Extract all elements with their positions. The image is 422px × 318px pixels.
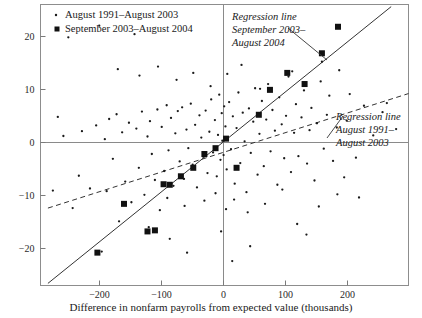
data-point-dot: [305, 233, 307, 235]
data-point-dot: [115, 113, 117, 115]
data-point-dot: [222, 154, 224, 156]
data-point-dot: [303, 89, 305, 91]
data-point-dot: [169, 238, 171, 240]
data-point-dot: [217, 134, 219, 136]
data-point-dot: [167, 149, 169, 151]
data-point-dot: [228, 101, 230, 103]
data-point-square: [121, 201, 127, 207]
data-point-dot: [237, 91, 239, 93]
data-point-dot: [101, 250, 103, 252]
data-point-dot: [343, 176, 345, 178]
data-point-dot: [141, 110, 143, 112]
data-point-dot: [295, 103, 297, 105]
data-point-square: [267, 87, 273, 93]
data-point-dot: [156, 108, 158, 110]
data-point-dot: [186, 251, 188, 253]
data-point-dot: [293, 132, 295, 134]
data-point-square: [213, 145, 219, 151]
data-point-dot: [386, 102, 388, 104]
data-point-dot: [276, 184, 278, 186]
data-point-dot: [232, 115, 234, 117]
data-point-dot: [138, 167, 140, 169]
data-point-dot: [291, 70, 293, 72]
data-point-dot: [179, 160, 181, 162]
data-point-dot: [245, 191, 247, 193]
y-tick-label: 10: [25, 84, 35, 95]
data-point-dot: [89, 187, 91, 189]
data-point-dot: [283, 157, 285, 159]
data-point-dot: [210, 98, 212, 100]
legend-item-label: August 1991–August 2003: [65, 8, 178, 22]
data-point-dot: [135, 127, 137, 129]
data-point-dot: [67, 36, 69, 38]
data-point-dot: [310, 107, 312, 109]
data-point-dot: [52, 189, 54, 191]
data-point-dot: [336, 193, 338, 195]
data-point-dot: [323, 148, 325, 150]
data-point-dot: [316, 122, 318, 124]
y-tick-label: −20: [19, 243, 35, 254]
data-point-dot: [214, 192, 216, 194]
data-point-square: [335, 24, 341, 30]
data-point-dot: [248, 107, 250, 109]
y-tick-label: −10: [19, 190, 35, 201]
annotation-line: August 2003: [336, 136, 401, 149]
data-point-dot: [296, 223, 298, 225]
data-point-dot: [297, 155, 299, 157]
data-point-dot: [157, 65, 159, 67]
data-point-dot: [242, 112, 244, 114]
chart-background: [0, 0, 422, 318]
data-point-dot: [258, 133, 260, 135]
data-point-dot: [138, 74, 140, 76]
data-point-dot: [349, 93, 351, 95]
data-point-dot: [81, 130, 83, 132]
data-point-dot: [250, 152, 252, 154]
data-point-dot: [106, 190, 108, 192]
data-point-dot: [226, 168, 228, 170]
annotation-line: August 1991–: [336, 123, 401, 136]
data-point-dot: [230, 148, 232, 150]
data-point-square: [94, 250, 100, 256]
data-point-dot: [300, 116, 302, 118]
data-point-dot: [338, 69, 340, 71]
annotation-line: Regression line: [232, 10, 305, 23]
data-point-dot: [243, 140, 245, 142]
data-point-dot: [149, 120, 151, 122]
data-point-square: [223, 136, 229, 142]
data-point-dot: [254, 87, 256, 89]
data-point-dot: [206, 172, 208, 174]
data-point-dot: [151, 153, 153, 155]
annotation-regression-august-1991: Regression line August 1991– August 2003: [336, 110, 401, 149]
data-point-dot: [234, 183, 236, 185]
data-point-dot: [281, 123, 283, 125]
data-point-dot: [326, 114, 328, 116]
data-point-dot: [239, 162, 241, 164]
data-point-dot: [252, 121, 254, 123]
data-point-dot: [363, 105, 365, 107]
data-point-dot: [249, 245, 251, 247]
data-point-dot: [112, 158, 114, 160]
data-point-square: [234, 165, 240, 171]
data-point-dot: [240, 64, 242, 66]
legend: August 1991–August 2003 September 2003–A…: [53, 8, 193, 36]
data-point-dot: [72, 207, 74, 209]
data-point-dot: [181, 106, 183, 108]
data-point-dot: [233, 198, 235, 200]
data-point-dot: [355, 157, 357, 159]
data-point-dot: [154, 179, 156, 181]
data-point-dot: [62, 135, 64, 137]
data-point-square: [152, 227, 158, 233]
data-point-dot: [175, 79, 177, 81]
square-marker-icon: [53, 25, 65, 33]
data-point-dot: [313, 179, 315, 181]
data-point-dot: [231, 260, 233, 262]
data-point-dot: [78, 175, 80, 177]
x-axis-title-wrap: Difference in nonfarm payrolls from expe…: [0, 297, 422, 315]
data-point-square: [167, 182, 173, 188]
data-point-dot: [198, 114, 200, 116]
data-point-dot: [170, 117, 172, 119]
data-point-dot: [196, 186, 198, 188]
data-point-dot: [265, 118, 267, 120]
data-point-dot: [117, 68, 119, 70]
data-point-dot: [203, 200, 205, 202]
